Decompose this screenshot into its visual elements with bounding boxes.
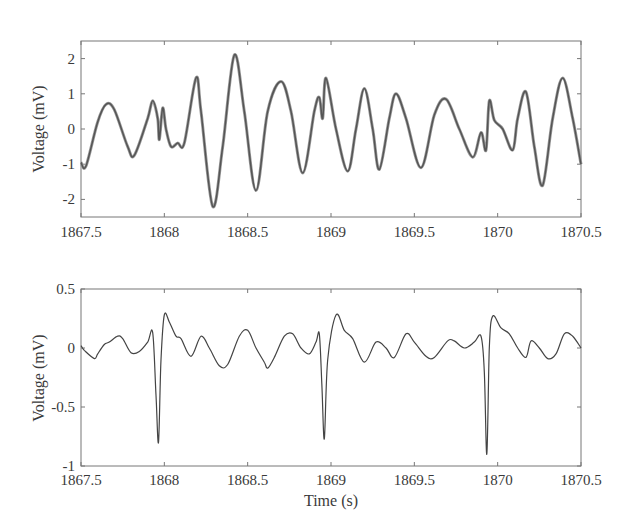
y-tick-label: -0.5 xyxy=(51,399,75,415)
x-tick-label: 1870.5 xyxy=(560,224,601,240)
x-tick-label: 1870.5 xyxy=(560,472,601,488)
x-tick-label: 1867.5 xyxy=(60,224,101,240)
x-tick-label: 1867.5 xyxy=(60,472,101,488)
y-tick-label: -1 xyxy=(63,458,76,474)
x-tick-label: 1868 xyxy=(149,224,179,240)
y-tick-label: -2 xyxy=(63,191,76,207)
x-tick-label: 1869.5 xyxy=(394,224,435,240)
y-tick-label: 0 xyxy=(68,340,76,356)
x-tick-label: 1868 xyxy=(149,472,179,488)
x-tick-label: 1869 xyxy=(316,472,346,488)
x-tick-label: 1868.5 xyxy=(227,224,268,240)
x-tick-label: 1870 xyxy=(483,472,513,488)
bottom-voltage-plot: 1867.518681868.518691869.518701870.5 0.5… xyxy=(30,281,602,510)
top-voltage-plot: 1867.518681868.518691869.518701870.5 210… xyxy=(30,41,602,240)
top-y-axis-label: Voltage (mV) xyxy=(30,85,48,172)
x-tick-label: 1869.5 xyxy=(394,472,435,488)
y-tick-label: 1 xyxy=(68,86,76,102)
x-tick-label: 1870 xyxy=(483,224,513,240)
y-tick-label: 0 xyxy=(68,121,76,137)
top-plot-frame xyxy=(81,41,581,217)
y-tick-label: -1 xyxy=(63,156,76,172)
y-tick-label: 2 xyxy=(68,51,76,67)
x-tick-label: 1869 xyxy=(316,224,346,240)
figure: 1867.518681868.518691869.518701870.5 210… xyxy=(0,0,630,532)
y-tick-label: 0.5 xyxy=(56,281,75,297)
bottom-y-axis-label: Voltage (mV) xyxy=(30,334,48,421)
bottom-plot-frame xyxy=(81,289,581,466)
x-tick-label: 1868.5 xyxy=(227,472,268,488)
bottom-x-axis-label: Time (s) xyxy=(304,492,358,510)
